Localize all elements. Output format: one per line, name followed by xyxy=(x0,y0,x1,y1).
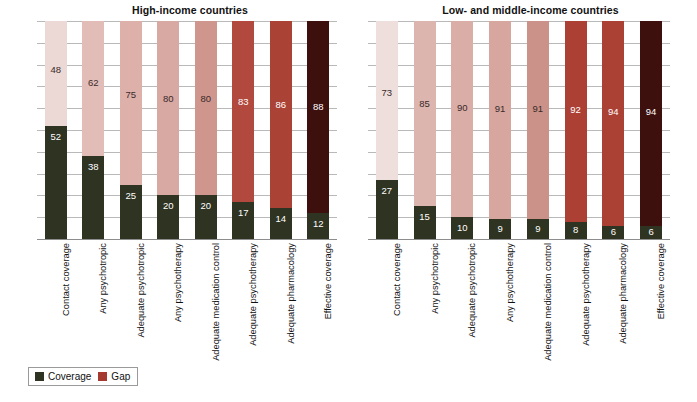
bar-value-label-coverage: 52 xyxy=(45,132,67,142)
bar-stack[interactable]: 8317 xyxy=(232,21,254,239)
x-axis-category-label: Adequate psychotropic xyxy=(136,243,146,338)
bar-value-label-gap: 91 xyxy=(489,104,511,114)
x-axis-category-label: Adequate medication control xyxy=(543,243,553,361)
bar-stack[interactable]: 8515 xyxy=(414,21,436,239)
bar-stack[interactable]: 7525 xyxy=(120,21,142,239)
bar-value-label-coverage: 14 xyxy=(270,214,292,224)
bar-value-label-gap: 73 xyxy=(376,88,398,98)
bar-stack[interactable]: 919 xyxy=(527,21,549,239)
bar-stack[interactable]: 6238 xyxy=(82,21,104,239)
plot-area-high-income: 1009080706050403020100485262387525802080… xyxy=(37,21,337,239)
bar-stack[interactable]: 9010 xyxy=(451,21,473,239)
bar-value-label-coverage: 6 xyxy=(602,227,624,237)
x-axis-category-label: Effective coverage xyxy=(656,243,666,319)
bar-segment-gap xyxy=(489,21,511,239)
bar-value-label-coverage: 12 xyxy=(307,219,329,229)
x-axis-category-label: Adequate pharmacology xyxy=(618,243,628,344)
bar-segment-gap xyxy=(307,21,329,239)
bar-value-label-gap: 94 xyxy=(640,107,662,117)
x-axis-category-label: Any psychotropic xyxy=(430,243,440,314)
panel-title-low-middle-income: Low- and middle-income countries xyxy=(352,4,697,16)
x-axis-category-label: Contact coverage xyxy=(61,243,71,316)
legend-item-coverage: Coverage xyxy=(35,371,91,382)
bar-segment-gap xyxy=(640,21,662,239)
panel-high-income: High-income countries 100908070605040302… xyxy=(0,0,352,402)
bar-stack[interactable]: 928 xyxy=(565,21,587,239)
bar-value-label-coverage: 27 xyxy=(376,186,398,196)
bar-segment-gap xyxy=(602,21,624,239)
x-axis-category-label: Adequate psychotherapy xyxy=(248,243,258,346)
bar-value-label-gap: 83 xyxy=(232,97,254,107)
bar-segment-gap xyxy=(565,21,587,239)
legend-item-gap: Gap xyxy=(98,371,130,382)
bar-stack[interactable]: 4852 xyxy=(45,21,67,239)
legend-swatch-gap xyxy=(98,372,107,381)
bar-value-label-gap: 80 xyxy=(157,94,179,104)
bar-stack[interactable]: 946 xyxy=(640,21,662,239)
bar-value-label-coverage: 25 xyxy=(120,191,142,201)
bar-value-label-coverage: 9 xyxy=(527,224,549,234)
bar-stack[interactable]: 8614 xyxy=(270,21,292,239)
bar-stack[interactable]: 946 xyxy=(602,21,624,239)
bar-value-label-gap: 86 xyxy=(270,100,292,110)
bar-value-label-gap: 48 xyxy=(45,65,67,75)
bar-stack[interactable]: 919 xyxy=(489,21,511,239)
bar-value-label-gap: 88 xyxy=(307,102,329,112)
bar-stack[interactable]: 8020 xyxy=(195,21,217,239)
x-axis-category-label: Adequate psychotherapy xyxy=(581,243,591,346)
legend-label-gap: Gap xyxy=(111,371,130,382)
bar-value-label-coverage: 15 xyxy=(414,212,436,222)
bar-segment-gap xyxy=(527,21,549,239)
bar-value-label-gap: 94 xyxy=(602,107,624,117)
figure: High-income countries 100908070605040302… xyxy=(0,0,697,402)
bar-value-label-coverage: 6 xyxy=(640,227,662,237)
bar-value-label-gap: 91 xyxy=(527,104,549,114)
legend: Coverage Gap xyxy=(28,367,138,386)
x-axis-category-label: Effective coverage xyxy=(323,243,333,319)
bar-value-label-gap: 80 xyxy=(195,94,217,104)
x-axis-category-label: Adequate medication control xyxy=(211,243,221,361)
bar-value-label-coverage: 9 xyxy=(489,224,511,234)
x-axis-category-label: Any psychotropic xyxy=(98,243,108,314)
bar-value-label-coverage: 20 xyxy=(157,201,179,211)
bar-segment-gap xyxy=(451,21,473,239)
bar-value-label-coverage: 38 xyxy=(82,162,104,172)
bar-value-label-gap: 85 xyxy=(414,99,436,109)
bar-value-label-coverage: 20 xyxy=(195,201,217,211)
bar-stack[interactable]: 8812 xyxy=(307,21,329,239)
x-axis-category-label: Adequate psychotropic xyxy=(467,243,477,338)
bar-stack[interactable]: 7327 xyxy=(376,21,398,239)
bar-value-label-coverage: 17 xyxy=(232,208,254,218)
bar-value-label-gap: 90 xyxy=(451,103,473,113)
bar-stack[interactable]: 8020 xyxy=(157,21,179,239)
bar-value-label-gap: 62 xyxy=(82,78,104,88)
plot-area-low-middle-income: 732785159010919919928946946 xyxy=(368,21,670,239)
bar-segment-gap xyxy=(270,21,292,239)
bar-value-label-gap: 75 xyxy=(120,90,142,100)
bar-segment-coverage xyxy=(45,126,67,239)
legend-swatch-coverage xyxy=(35,372,44,381)
x-axis-category-label: Adequate pharmacology xyxy=(286,243,296,344)
panel-low-middle-income: Low- and middle-income countries 7327851… xyxy=(352,0,697,402)
bar-value-label-coverage: 8 xyxy=(565,225,587,235)
x-axis-category-label: Contact coverage xyxy=(392,243,402,316)
x-axis-category-label: Any psychotherapy xyxy=(505,243,515,322)
panel-title-high-income: High-income countries xyxy=(0,4,366,16)
bar-value-label-gap: 92 xyxy=(565,105,587,115)
legend-label-coverage: Coverage xyxy=(48,371,91,382)
x-axis-category-label: Any psychotherapy xyxy=(173,243,183,322)
bar-value-label-coverage: 10 xyxy=(451,223,473,233)
